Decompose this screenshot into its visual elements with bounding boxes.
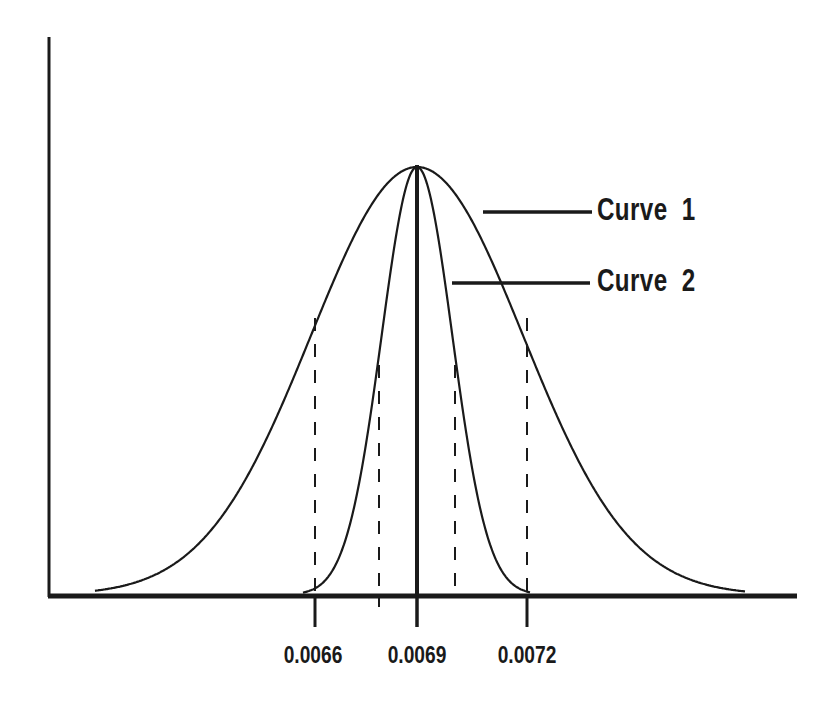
legend-curve-1: Curve 1 xyxy=(597,192,696,228)
chart-canvas xyxy=(0,0,835,715)
x-tick-label-0066: 0.0066 xyxy=(284,641,343,669)
curve-1-line xyxy=(95,167,745,591)
legend-curve-2: Curve 2 xyxy=(597,263,696,299)
x-tick-label-0072: 0.0072 xyxy=(498,641,557,669)
x-tick-label-0069: 0.0069 xyxy=(388,641,447,669)
